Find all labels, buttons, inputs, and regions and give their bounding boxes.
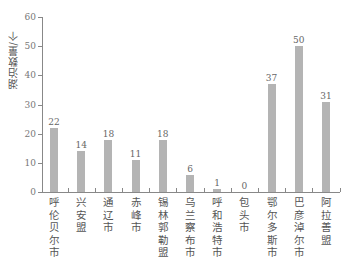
bar — [159, 140, 167, 193]
x-tick — [176, 188, 177, 192]
y-tick-label: 0 — [10, 187, 36, 197]
value-label: 50 — [287, 35, 311, 45]
value-label: 6 — [178, 164, 202, 174]
x-tick — [95, 188, 96, 192]
bar — [295, 46, 303, 192]
y-tick — [38, 163, 42, 164]
x-tick-label: 阿拉善盟 — [320, 196, 332, 246]
bar — [132, 160, 140, 192]
y-tick — [38, 192, 42, 193]
value-label: 1 — [205, 178, 229, 188]
x-tick-label: 赤峰市 — [130, 196, 142, 234]
y-tick-label: 10 — [10, 158, 36, 168]
x-tick-label: 锡林郭勒盟 — [157, 196, 169, 259]
y-axis-label: 湖泊数量/个 — [8, 30, 22, 89]
value-label: 18 — [96, 129, 120, 139]
x-tick — [122, 188, 123, 192]
x-tick-label: 兴安盟 — [75, 196, 87, 234]
x-tick-label: 通辽市 — [102, 196, 114, 234]
x-tick — [204, 188, 205, 192]
value-label: 14 — [69, 140, 93, 150]
value-label: 0 — [232, 181, 256, 191]
y-tick-label: 50 — [10, 41, 36, 51]
x-tick — [340, 188, 341, 192]
y-tick-label: 20 — [10, 129, 36, 139]
x-tick-label: 巴彦淖尔市 — [293, 196, 305, 259]
x-tick — [312, 188, 313, 192]
x-tick-label: 包头市 — [238, 196, 250, 234]
y-axis — [42, 17, 43, 192]
x-tick-label: 乌兰察布市 — [184, 196, 196, 259]
x-tick-label: 鄂尔多斯市 — [266, 196, 278, 259]
x-tick — [149, 188, 150, 192]
bar — [50, 128, 58, 192]
value-label: 22 — [42, 117, 66, 127]
value-label: 31 — [314, 91, 338, 101]
x-tick-label: 呼和浩特市 — [211, 196, 223, 259]
y-tick-label: 40 — [10, 70, 36, 80]
y-tick — [38, 17, 42, 18]
x-tick — [285, 188, 286, 192]
bar — [322, 102, 330, 192]
bar — [213, 189, 221, 192]
bar — [104, 140, 112, 193]
y-tick-label: 30 — [10, 100, 36, 110]
y-tick — [38, 134, 42, 135]
x-axis — [42, 192, 340, 193]
x-tick — [258, 188, 259, 192]
lake-count-bar-chart: 湖泊数量/个 0102030405060 22呼伦贝尔市14兴安盟18通辽市11… — [0, 0, 353, 267]
bar — [186, 175, 194, 193]
x-tick-label: 呼伦贝尔市 — [48, 196, 60, 259]
y-tick-label: 60 — [10, 12, 36, 22]
bar — [268, 84, 276, 192]
y-tick — [38, 46, 42, 47]
value-label: 18 — [151, 129, 175, 139]
bar — [77, 151, 85, 192]
x-tick — [68, 188, 69, 192]
y-tick — [38, 75, 42, 76]
value-label: 37 — [260, 73, 284, 83]
value-label: 11 — [124, 149, 148, 159]
y-tick — [38, 105, 42, 106]
